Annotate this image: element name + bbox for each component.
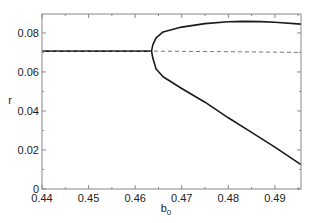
x-tick-label: 0.45: [78, 192, 99, 204]
plot-frame: [42, 14, 301, 189]
y-tick-label: 0: [33, 183, 39, 195]
stable-branch-line: [152, 21, 302, 51]
y-tick-label: 0.08: [18, 27, 39, 39]
y-tick-label: 0.06: [18, 66, 39, 78]
y-tick-label: 0.02: [18, 144, 39, 156]
stable-branch-line: [152, 51, 302, 165]
x-tick-label: 0.46: [124, 192, 145, 204]
y-axis-label: r: [8, 94, 12, 106]
x-tick-label: 0.49: [264, 192, 285, 204]
x-tick-label: 0.48: [218, 192, 239, 204]
y-axis: 00.020.040.060.08: [18, 27, 301, 195]
x-axis: 0.440.450.460.470.480.49: [31, 14, 298, 204]
x-tick-label: 0.47: [171, 192, 192, 204]
x-axis-label: b0: [161, 202, 172, 217]
y-tick-label: 0.04: [18, 105, 39, 117]
plot-lines: [42, 21, 301, 164]
bifurcation-chart: 0.440.450.460.470.480.49 00.020.040.060.…: [0, 0, 314, 223]
